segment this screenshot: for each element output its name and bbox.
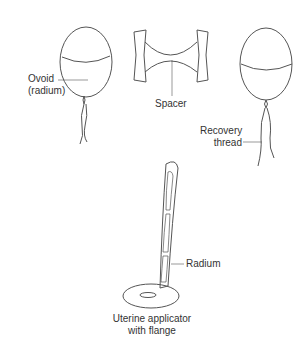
ovoid-label-line2: (radium) bbox=[28, 85, 65, 97]
applicator-diagram bbox=[0, 0, 307, 345]
recovery-thread-label-line1: Recovery bbox=[200, 125, 242, 137]
uterine-applicator-label-line1: Uterine applicator bbox=[100, 313, 204, 325]
spacer bbox=[134, 30, 208, 96]
recovery-thread-label-line2: thread bbox=[200, 137, 242, 149]
radium-label: Radium bbox=[186, 258, 220, 270]
ovoid-label: Ovoid (radium) bbox=[28, 73, 65, 97]
uterine-applicator-label: Uterine applicator with flange bbox=[100, 313, 204, 337]
left-ovoid bbox=[58, 27, 112, 144]
right-ovoid bbox=[240, 28, 292, 166]
ovoid-label-line1: Ovoid bbox=[28, 73, 65, 85]
uterine-applicator bbox=[123, 162, 184, 308]
recovery-thread-label: Recovery thread bbox=[200, 125, 242, 149]
spacer-label: Spacer bbox=[155, 98, 187, 110]
uterine-applicator-label-line2: with flange bbox=[100, 325, 204, 337]
